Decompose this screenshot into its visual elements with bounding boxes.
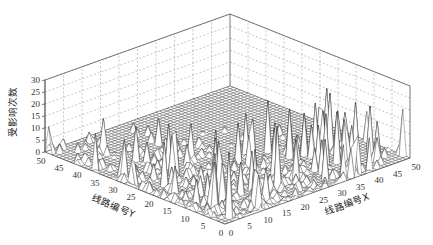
z-tick-label: 20 xyxy=(31,99,41,109)
x-tick-label: 40 xyxy=(375,175,385,185)
x-tick-label: 50 xyxy=(412,162,422,172)
surface-chart: 0510152025300510152025303540455005101520… xyxy=(0,0,433,245)
x-axis-label: 线路编号X xyxy=(323,190,371,216)
x-tick-label: 10 xyxy=(264,215,274,225)
z-tick xyxy=(42,152,45,153)
z-tick xyxy=(42,128,45,129)
z-tick-label: 25 xyxy=(31,87,41,97)
z-tick-label: 5 xyxy=(36,135,41,145)
z-tick-label: 10 xyxy=(31,123,41,133)
y-tick-label: 30 xyxy=(109,185,119,195)
x-tick-label: 5 xyxy=(247,221,252,231)
y-tick-label: 15 xyxy=(163,206,173,216)
y-tick-label: 20 xyxy=(145,199,155,209)
x-tick-label: 25 xyxy=(319,195,329,205)
y-tick-label: 25 xyxy=(127,192,137,202)
y-tick-label: 5 xyxy=(201,221,206,231)
x-tick-label: 35 xyxy=(356,182,366,192)
x-tick-label: 20 xyxy=(301,202,311,212)
z-axis-label: 受影响次数 xyxy=(7,87,18,137)
z-tick xyxy=(42,116,45,117)
x-tick-label: 30 xyxy=(338,188,348,198)
z-tick-label: 15 xyxy=(31,111,41,121)
axis-edge xyxy=(230,14,410,86)
y-tick-label: 50 xyxy=(37,156,47,166)
z-tick xyxy=(42,140,45,141)
y-tick-label: 10 xyxy=(181,214,191,224)
x-tick-label: 0 xyxy=(229,228,234,238)
y-tick-label: 40 xyxy=(73,170,83,180)
x-tick-label: 45 xyxy=(393,169,403,179)
z-tick xyxy=(42,80,45,81)
y-tick-label: 35 xyxy=(91,178,101,188)
z-tick-label: 30 xyxy=(31,75,41,85)
x-tick-label: 15 xyxy=(282,208,292,218)
y-tick-label: 45 xyxy=(55,163,65,173)
z-tick xyxy=(42,92,45,93)
y-tick-label: 0 xyxy=(219,228,224,238)
z-tick xyxy=(42,104,45,105)
